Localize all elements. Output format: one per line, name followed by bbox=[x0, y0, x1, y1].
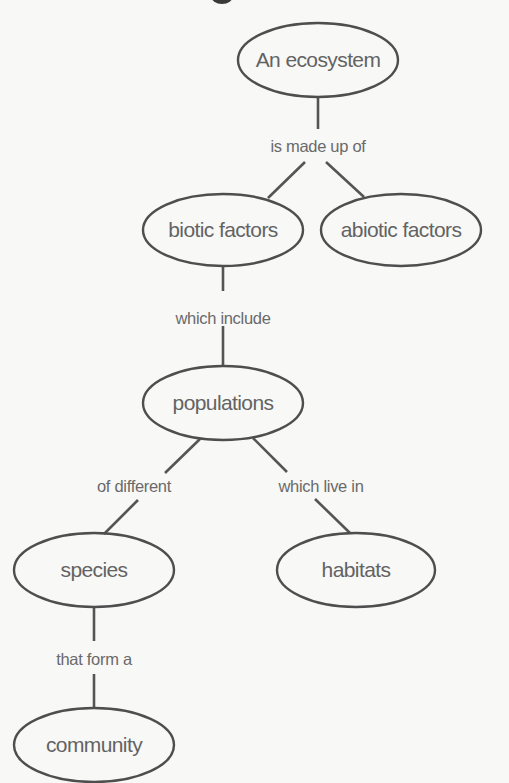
node-biotic-factors: biotic factors bbox=[143, 194, 303, 266]
node-label-abiotic-factors: abiotic factors bbox=[341, 218, 462, 241]
link-label-which-live-in: which live in bbox=[277, 477, 363, 495]
node-populations: populations bbox=[143, 366, 303, 440]
link-label-which-include: which include bbox=[174, 309, 270, 327]
edge-which-live-in-to-habitats bbox=[315, 499, 350, 533]
node-species: species bbox=[14, 533, 174, 607]
edge-populations-to-of-different bbox=[165, 439, 200, 473]
node-label-community: community bbox=[46, 733, 143, 756]
node-community: community bbox=[14, 708, 174, 782]
node-label-biotic-factors: biotic factors bbox=[168, 218, 278, 241]
node-ecosystem: An ecosystem bbox=[238, 23, 398, 97]
link-label-is-made-up-of: is made up of bbox=[270, 137, 366, 155]
edge-populations-to-which-live-in bbox=[253, 438, 287, 472]
heading-glyph-fragment bbox=[211, 0, 233, 4]
node-label-ecosystem: An ecosystem bbox=[256, 48, 381, 71]
edge-label-to-abiotic bbox=[326, 162, 364, 197]
node-label-species: species bbox=[60, 558, 127, 581]
node-label-populations: populations bbox=[173, 391, 274, 414]
link-label-of-different: of different bbox=[97, 477, 172, 495]
node-habitats: habitats bbox=[277, 533, 435, 607]
concept-map: An ecosystem biotic factors abiotic fact… bbox=[0, 0, 509, 783]
link-label-that-form-a: that form a bbox=[56, 650, 133, 668]
edge-label-to-biotic bbox=[268, 162, 305, 198]
edge-of-different-to-species bbox=[104, 500, 138, 534]
node-label-habitats: habitats bbox=[322, 558, 391, 581]
node-abiotic-factors: abiotic factors bbox=[321, 194, 481, 266]
